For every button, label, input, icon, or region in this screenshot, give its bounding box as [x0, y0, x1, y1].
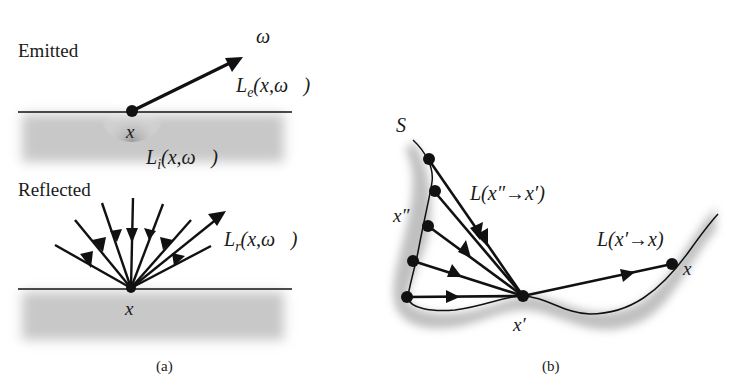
emitted-title: Emitted	[18, 40, 79, 61]
point-x-label: x	[124, 298, 134, 319]
emitted-radiance-label: Le(x,ω⃗)	[235, 74, 311, 100]
reflected-title: Reflected	[18, 179, 91, 200]
direction-label: ω⃗	[256, 25, 286, 47]
reflected-radiance-label: Lr(x,ω⃗)	[223, 228, 298, 254]
rendering-equation-diagram: Emitted ω⃗ x Le(x,ω⃗) Li(x,ω⃗)	[0, 0, 734, 388]
caption-a: (a)	[156, 358, 173, 375]
caption-b: (b)	[542, 358, 560, 375]
panel-a-reflected: Reflected x Lr(x,ω⃗) (a)	[18, 179, 298, 375]
incoming-rays	[55, 198, 218, 288]
surface-shade	[22, 292, 284, 340]
source-point-label: x″	[392, 205, 410, 226]
point-x	[126, 105, 138, 117]
point-x-prime	[517, 290, 529, 302]
intermediate-point-label: x′	[512, 314, 526, 335]
internal-radiance-label: Li(x,ω⃗)	[145, 146, 218, 172]
panel-b: S x″ x′ x L(x″→x′) L(x′→x) (b)	[392, 114, 718, 375]
surface-label: S	[396, 114, 406, 136]
point-x-label: x	[125, 121, 135, 142]
incoming-arrowheads-icon	[80, 211, 226, 268]
point-x	[126, 283, 136, 293]
transport-out-label: L(x′→x)	[596, 228, 664, 251]
panel-a-emitted: Emitted ω⃗ x Le(x,ω⃗) Li(x,ω⃗)	[18, 25, 311, 172]
target-point-label: x	[682, 258, 692, 279]
point-x	[666, 258, 678, 270]
transport-in-label: L(x″→x′)	[469, 182, 545, 205]
